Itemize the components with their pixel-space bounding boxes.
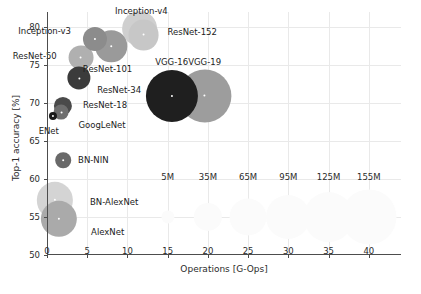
size-legend-label: 155M <box>357 172 381 182</box>
x-tick-label: 20 <box>202 246 213 256</box>
size-legend-bubble <box>341 190 396 245</box>
bubble-label: AlexNet <box>91 227 124 237</box>
size-legend-label: 125M <box>317 172 341 182</box>
x-tick-label: 10 <box>122 246 133 256</box>
x-tick-label: 40 <box>363 246 374 256</box>
data-bubble[interactable] <box>83 27 107 51</box>
data-bubble[interactable] <box>55 152 71 168</box>
bubble-center-dot <box>143 34 145 36</box>
data-bubble[interactable] <box>49 112 57 120</box>
bubble-center-dot <box>171 95 173 97</box>
x-axis-line <box>47 254 401 255</box>
y-tick-label: 80 <box>22 22 40 32</box>
bubble-label: GoogLeNet <box>78 120 125 130</box>
y-tick-label: 65 <box>22 136 40 146</box>
bubble-label: ResNet-34 <box>97 85 141 95</box>
y-tick <box>44 217 47 218</box>
y-tick <box>44 179 47 180</box>
y-tick <box>44 103 47 104</box>
y-tick <box>44 65 47 66</box>
y-tick-label: 60 <box>22 174 40 184</box>
gridline-vertical <box>127 12 128 255</box>
bubble-center-dot <box>80 57 82 59</box>
y-tick-label: 70 <box>22 98 40 108</box>
bubble-label: VGG-19 <box>188 57 221 67</box>
bubble-label: BN-NIN <box>78 155 108 165</box>
bubble-center-dot <box>60 111 62 113</box>
bubble-label: ResNet-152 <box>168 27 217 37</box>
bubble-label: ENet <box>39 126 59 136</box>
size-legend-bubble <box>230 199 267 236</box>
y-axis-label: Top-1 accuracy [%] <box>11 68 21 208</box>
bubble-label: ResNet-50 <box>13 51 57 61</box>
data-bubble[interactable] <box>146 69 198 121</box>
x-tick-label: 15 <box>162 246 173 256</box>
chart-root: ENetGoogLeNetResNet-18BN-NINBN-AlexNetAl… <box>0 0 421 294</box>
y-tick <box>44 141 47 142</box>
data-bubble[interactable] <box>128 19 159 50</box>
gridline-horizontal <box>47 141 401 142</box>
bubble-center-dot <box>110 45 112 47</box>
bubble-center-dot <box>62 159 64 161</box>
y-tick-label: 75 <box>22 60 40 70</box>
bubble-label: ResNet-101 <box>83 64 132 74</box>
y-tick-label: 55 <box>22 212 40 222</box>
y-tick <box>44 27 47 28</box>
bubble-label: Inception-v4 <box>115 6 168 16</box>
bubble-label: VGG-16 <box>155 57 188 67</box>
size-legend-label: 5M <box>161 172 174 182</box>
size-legend-label: 95M <box>279 172 297 182</box>
bubble-label: BN-AlexNet <box>90 197 138 207</box>
size-legend-label: 35M <box>199 172 217 182</box>
y-tick-label: 50 <box>22 250 40 260</box>
x-tick-label: 5 <box>85 246 90 256</box>
x-tick-label: 25 <box>243 246 254 256</box>
bubble-center-dot <box>204 95 206 97</box>
size-legend-label: 65M <box>239 172 257 182</box>
size-legend-bubble <box>194 203 222 231</box>
plot-area: ENetGoogLeNetResNet-18BN-NINBN-AlexNetAl… <box>47 12 401 255</box>
x-axis-label: Operations [G-Ops] <box>47 264 401 274</box>
gridline-horizontal <box>47 179 401 180</box>
x-tick-label: 30 <box>283 246 294 256</box>
x-tick-label: 0 <box>44 246 49 256</box>
size-legend-bubble <box>161 210 174 223</box>
bubble-center-dot <box>52 115 54 117</box>
x-tick-label: 35 <box>323 246 334 256</box>
y-axis-line <box>47 12 48 255</box>
bubble-center-dot <box>58 218 60 220</box>
bubble-label: ResNet-18 <box>83 100 127 110</box>
bubble-center-dot <box>78 77 80 79</box>
bubble-center-dot <box>94 38 96 40</box>
